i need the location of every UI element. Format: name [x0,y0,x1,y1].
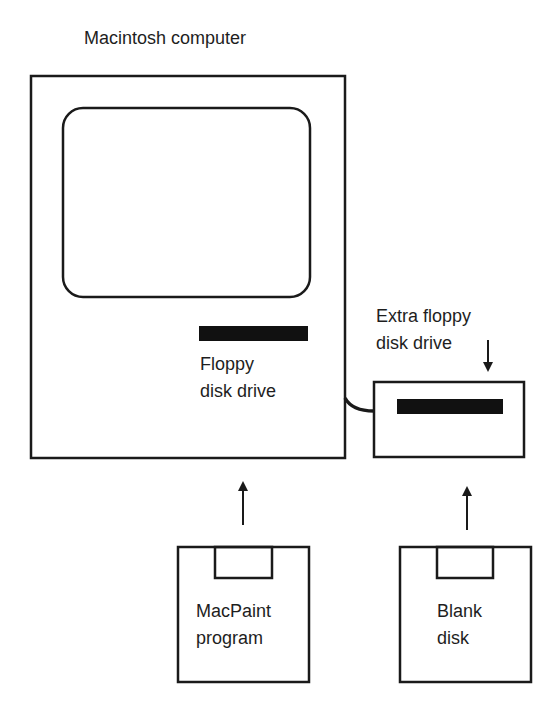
floppy-label-line1: Floppy [200,353,254,375]
cable [345,398,374,411]
extra-drive-body [374,382,524,457]
floppy-label-line2: disk drive [200,380,276,402]
computer-body [31,76,345,458]
extra-drive-label-line1: Extra floppy [376,305,471,327]
blank-disk-shutter [437,547,493,578]
macpaint-label-line2: program [196,627,263,649]
computer-title: Macintosh computer [84,27,246,49]
extra-drive-label-line2: disk drive [376,332,452,354]
extra-drive-slot [397,399,503,414]
macpaint-disk-shutter [215,547,272,578]
blank-disk-label-line1: Blank [437,600,482,622]
macpaint-label-line1: MacPaint [196,600,271,622]
floppy-slot [199,326,308,341]
blank-disk-label-line2: disk [437,627,469,649]
computer-screen [63,108,310,297]
